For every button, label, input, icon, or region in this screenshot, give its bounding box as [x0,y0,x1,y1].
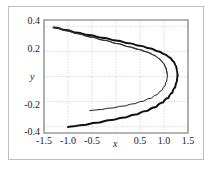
y-tick-label-1: 0.2 [14,44,40,54]
x-tick-label-2: -0.5 [80,136,104,146]
y-tick-label-3: -0.2 [12,100,40,110]
gridlines [44,20,188,133]
figure-container: 0.4 0.2 y -0.2 -0.4 -1.5 -1.0 -0.5 x 0.5… [0,0,214,169]
curve-inner-branch-upper-2 [54,28,167,74]
y-axis-label: y [30,72,34,82]
y-tick-label-0: 0.4 [14,16,40,26]
data-curves [54,28,178,127]
curve-inner-branch-upper [54,28,168,76]
curve-outer-branch-upper [54,28,178,76]
x-tick-label-1: -1.0 [56,136,80,146]
curve-inner-branch-lower [90,76,168,111]
x-axis-label: x [113,139,117,149]
x-tick-label-6: 1.5 [176,136,200,146]
x-tick-label-5: 1.0 [152,136,176,146]
x-tick-label-4: 0.5 [128,136,152,146]
x-tick-label-0: -1.5 [32,136,56,146]
